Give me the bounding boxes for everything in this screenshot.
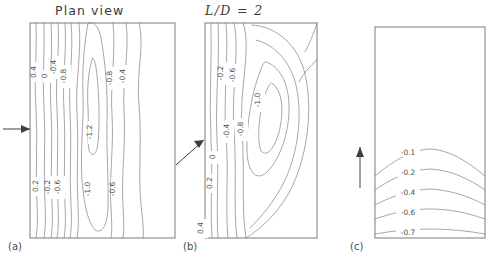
contour-label: -0.6 [53, 179, 62, 194]
panel-b-label: (b) [183, 241, 197, 252]
contour-label: -0.1 [401, 148, 416, 157]
contour-label: 0.4 [196, 222, 205, 234]
panel-a-arrow [3, 125, 30, 133]
panel-a-label: (a) [8, 241, 22, 252]
panel-a: 0.4 0 -0.4 -0.8 -0.8 -0.4 -1.2 0.2 -0.2 … [3, 23, 175, 252]
contour-label: -0.4 [222, 123, 231, 138]
panel-c: -0.1 -0.2 -0.4 -0.6 -0.7 (c) [350, 27, 485, 252]
contour-label: -0.6 [108, 181, 117, 196]
contour-label: -0.2 [43, 180, 52, 194]
contour-figure: Plan view L/D = 2 0.4 [0, 0, 491, 260]
contour-label: -0.2 [216, 66, 225, 80]
figure-canvas: Plan view L/D = 2 0.4 [0, 0, 491, 260]
panel-c-label: (c) [350, 241, 363, 252]
contour-label: -0.7 [401, 228, 416, 237]
contour-label: -0.4 [401, 188, 416, 197]
contour-label: 0.4 [29, 66, 38, 78]
contour-label: -0.6 [228, 67, 237, 82]
contour-label: -0.2 [401, 168, 415, 177]
contour-label: -0.8 [59, 68, 68, 83]
contour-label: -0.4 [118, 68, 127, 83]
contour-label: -1.0 [253, 92, 262, 107]
contour-label: -0.6 [401, 208, 416, 217]
panel-c-arrow [356, 147, 364, 188]
contour-label: 0 [208, 154, 217, 159]
contour-label: 0 [40, 73, 49, 78]
panel-c-frame [375, 27, 485, 238]
plan-view-title: Plan view [55, 3, 124, 18]
ld-ratio-title: L/D = 2 [204, 3, 264, 18]
contour-label: -0.4 [49, 59, 58, 74]
contour-label: -0.8 [236, 121, 245, 136]
contour-label: 0.2 [205, 177, 214, 189]
contour-label: -1.2 [85, 125, 94, 139]
contour-label: 0.2 [31, 180, 40, 192]
panel-b-arrow [176, 140, 204, 165]
contour-label: -0.8 [105, 70, 114, 85]
contour-label: -1.0 [83, 181, 92, 196]
panel-b: -0.2 -0.6 -1.0 -0.4 -0.8 0 0.2 0.4 (b) [176, 23, 317, 252]
